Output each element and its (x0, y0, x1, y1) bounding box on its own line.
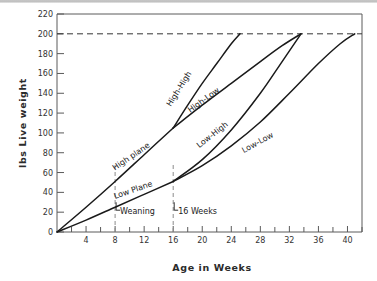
x-axis-tick-labels: 481216202428323640 (84, 236, 353, 245)
y-tick-label: 180 (38, 50, 53, 59)
y-axis-tick-labels: 020406080100120140160180200220 (38, 10, 53, 237)
x-tick-label: 16 (168, 236, 178, 245)
x-axis-title: Age in Weeks (172, 262, 251, 273)
y-tick-label: 80 (43, 149, 53, 158)
x-tick-label: 20 (197, 236, 207, 245)
event-label: Weaning (120, 207, 155, 216)
y-tick-label: 160 (38, 69, 53, 78)
y-tick-label: 0 (48, 228, 53, 237)
y-tick-label: 140 (38, 89, 53, 98)
y-tick-label: 40 (43, 188, 53, 197)
y-tick-label: 220 (38, 10, 53, 19)
y-tick-label: 120 (38, 109, 53, 118)
x-tick-label: 36 (313, 236, 323, 245)
x-tick-label: 24 (226, 236, 236, 245)
y-tick-label: 100 (38, 129, 53, 138)
x-tick-label: 40 (342, 236, 352, 245)
x-tick-label: 32 (284, 236, 294, 245)
y-tick-label: 20 (43, 208, 53, 217)
growth-curve-chart: 020406080100120140160180200220 481216202… (0, 0, 377, 281)
x-tick-label: 28 (255, 236, 265, 245)
y-axis-title: lbs Live weight (17, 78, 28, 168)
plot-area: 020406080100120140160180200220 481216202… (38, 10, 362, 245)
x-tick-label: 8 (113, 236, 118, 245)
x-tick-label: 4 (84, 236, 89, 245)
y-axis-title-group: lbs Live weight (17, 78, 28, 168)
x-tick-label: 12 (139, 236, 149, 245)
chart-page: 020406080100120140160180200220 481216202… (0, 0, 377, 281)
plot-background (57, 14, 362, 232)
event-label: 16 Weeks (178, 207, 217, 216)
y-tick-label: 200 (38, 30, 53, 39)
y-tick-label: 60 (43, 169, 53, 178)
